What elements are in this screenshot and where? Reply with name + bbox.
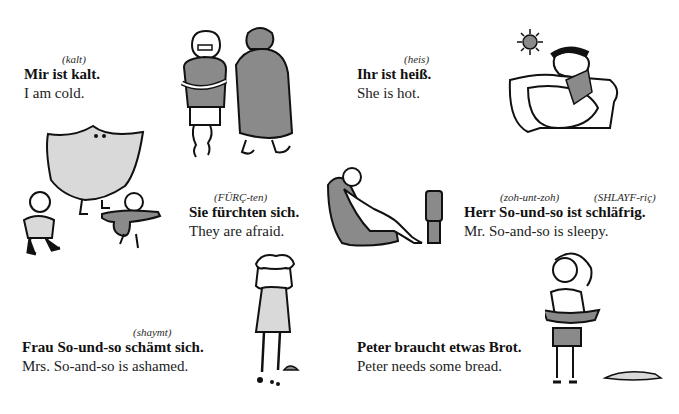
german-sentence: Sie fürchten sich.	[189, 204, 299, 221]
cold-people-illustration	[180, 15, 300, 160]
english-translation: Peter needs some bread.	[357, 358, 502, 375]
german-sentence: Frau So-und-so schämt sich.	[22, 339, 204, 356]
sun-icon	[517, 29, 543, 55]
ghost-children-illustration	[18, 122, 178, 267]
pronunciation: (heis)	[404, 53, 429, 65]
pronunciation: (FÜRÇ-ten)	[214, 191, 267, 203]
hot-woman-illustration	[500, 28, 625, 138]
german-sentence: Mir ist kalt.	[24, 66, 100, 83]
german-sentence: Peter braucht etwas Brot.	[357, 339, 521, 356]
english-translation: They are afraid.	[189, 223, 284, 240]
pronunciation: (shaymt)	[133, 326, 172, 338]
peter-bread-illustration	[545, 248, 675, 388]
ashamed-woman-illustration	[248, 252, 308, 387]
tv-icon	[426, 191, 442, 243]
pronunciation: (SHLAYF-riç)	[594, 191, 656, 203]
bread-loaf-icon	[605, 372, 661, 380]
pronunciation: (zoh-unt-zoh)	[500, 191, 559, 203]
german-sentence: Ihr ist heiß.	[357, 66, 431, 83]
english-translation: I am cold.	[24, 85, 84, 102]
pronunciation: (kalt)	[62, 53, 86, 65]
english-translation: Mr. So-and-so is sleepy.	[464, 223, 608, 240]
english-translation: Mrs. So-and-so is ashamed.	[22, 358, 188, 375]
sleepy-man-illustration	[322, 165, 447, 250]
german-sentence: Herr So-und-so ist schläfrig.	[464, 204, 645, 221]
english-translation: She is hot.	[357, 85, 420, 102]
